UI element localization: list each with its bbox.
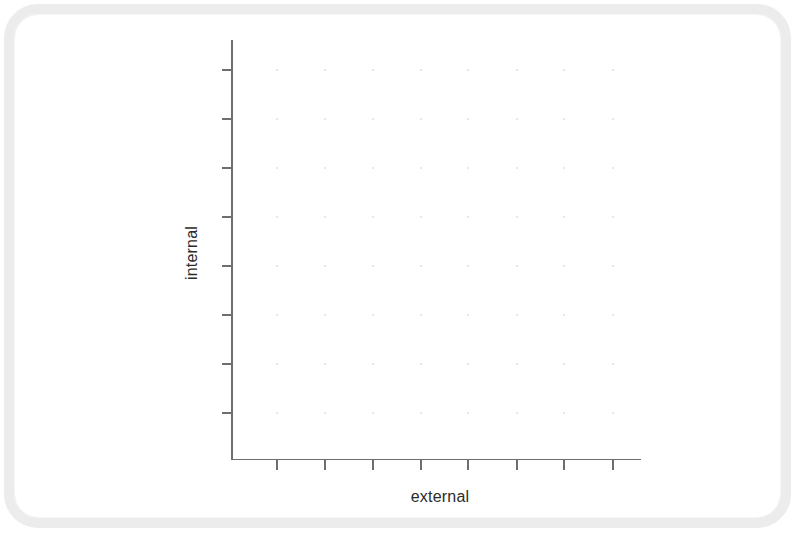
grid-dot-5-3 [420, 314, 422, 316]
y-tick-2 [222, 167, 231, 169]
grid-dot-0-5 [516, 69, 518, 71]
y-tick-5 [222, 314, 231, 316]
grid-dot-5-4 [467, 314, 469, 316]
grid-dot-5-2 [372, 314, 374, 316]
grid-dot-5-5 [516, 314, 518, 316]
grid-dot-4-7 [612, 265, 614, 267]
grid-dot-2-1 [324, 167, 326, 169]
grid-dot-6-6 [563, 363, 565, 365]
grid-dot-0-0 [276, 69, 278, 71]
grid-dot-3-2 [372, 216, 374, 218]
grid-dot-6-5 [516, 363, 518, 365]
grid-dot-2-0 [276, 167, 278, 169]
y-tick-7 [222, 412, 231, 414]
grid-dot-1-4 [467, 118, 469, 120]
x-tick-2 [372, 460, 374, 470]
grid-dot-1-7 [612, 118, 614, 120]
grid-dot-1-6 [563, 118, 565, 120]
y-tick-4 [222, 265, 231, 267]
grid-dot-6-7 [612, 363, 614, 365]
x-tick-7 [612, 460, 614, 470]
grid-dot-5-7 [612, 314, 614, 316]
grid-dot-7-0 [276, 412, 278, 414]
grid-dot-4-2 [372, 265, 374, 267]
grid-dot-6-4 [467, 363, 469, 365]
grid-dot-5-6 [563, 314, 565, 316]
grid-dot-7-4 [467, 412, 469, 414]
grid-dot-3-7 [612, 216, 614, 218]
grid-dot-0-7 [612, 69, 614, 71]
grid-dot-3-1 [324, 216, 326, 218]
grid-dot-4-6 [563, 265, 565, 267]
grid-dot-3-0 [276, 216, 278, 218]
grid-dot-4-4 [467, 265, 469, 267]
grid-dot-3-3 [420, 216, 422, 218]
grid-dot-1-0 [276, 118, 278, 120]
y-axis-label: internal [183, 226, 201, 280]
grid-dot-3-5 [516, 216, 518, 218]
grid-dot-7-3 [420, 412, 422, 414]
grid-dot-7-7 [612, 412, 614, 414]
x-axis-label: external [411, 488, 470, 506]
grid-dot-7-2 [372, 412, 374, 414]
plot-canvas[interactable]: internal external [0, 0, 803, 540]
grid-dot-3-4 [467, 216, 469, 218]
screenshot-root: internal external [0, 0, 803, 540]
y-axis-line [231, 40, 233, 460]
grid-dot-0-4 [467, 69, 469, 71]
grid-dot-4-1 [324, 265, 326, 267]
grid-dot-4-0 [276, 265, 278, 267]
grid-dot-2-4 [467, 167, 469, 169]
grid-dot-1-2 [372, 118, 374, 120]
x-tick-3 [420, 460, 422, 470]
y-tick-6 [222, 363, 231, 365]
grid-dot-2-6 [563, 167, 565, 169]
x-axis-line [231, 459, 641, 461]
grid-dot-5-0 [276, 314, 278, 316]
grid-dot-2-7 [612, 167, 614, 169]
grid-dot-6-0 [276, 363, 278, 365]
x-tick-4 [467, 460, 469, 470]
y-tick-0 [222, 69, 231, 71]
grid-dot-2-3 [420, 167, 422, 169]
grid-dot-7-1 [324, 412, 326, 414]
x-tick-6 [563, 460, 565, 470]
y-tick-3 [222, 216, 231, 218]
grid-dot-6-1 [324, 363, 326, 365]
grid-dot-2-5 [516, 167, 518, 169]
y-tick-1 [222, 118, 231, 120]
grid-dot-2-2 [372, 167, 374, 169]
grid-dot-1-3 [420, 118, 422, 120]
grid-dot-0-3 [420, 69, 422, 71]
x-tick-0 [276, 460, 278, 470]
grid-dot-7-6 [563, 412, 565, 414]
grid-dot-6-3 [420, 363, 422, 365]
grid-dot-6-2 [372, 363, 374, 365]
grid-dot-0-2 [372, 69, 374, 71]
grid-dot-5-1 [324, 314, 326, 316]
grid-dot-4-5 [516, 265, 518, 267]
grid-dot-3-6 [563, 216, 565, 218]
grid-dot-7-5 [516, 412, 518, 414]
grid-dot-0-1 [324, 69, 326, 71]
grid-dot-1-1 [324, 118, 326, 120]
x-tick-1 [324, 460, 326, 470]
grid-dot-1-5 [516, 118, 518, 120]
grid-dot-4-3 [420, 265, 422, 267]
grid-dot-0-6 [563, 69, 565, 71]
x-tick-5 [516, 460, 518, 470]
